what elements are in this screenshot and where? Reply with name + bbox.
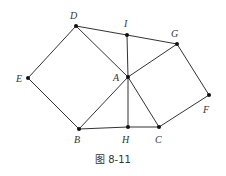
- segment-AG: [128, 44, 177, 77]
- label-F: F: [202, 104, 210, 115]
- point-B: [77, 127, 81, 131]
- point-D: [74, 24, 78, 28]
- segment-BH: [79, 127, 128, 129]
- point-labels: DIGEAFBHC: [15, 10, 210, 145]
- point-A: [126, 75, 130, 79]
- segment-GF: [177, 44, 209, 95]
- segment-EB: [28, 78, 79, 129]
- label-B: B: [74, 134, 80, 145]
- label-A: A: [112, 72, 120, 83]
- figure-caption: 图 8-11: [95, 154, 131, 165]
- point-G: [175, 42, 179, 46]
- segment-DE: [28, 26, 76, 78]
- segment-IA: [127, 35, 128, 77]
- geometry-figure: DIGEAFBHC 图 8-11: [0, 0, 226, 176]
- point-H: [126, 125, 130, 129]
- point-E: [26, 76, 30, 80]
- segment-IG: [127, 35, 177, 44]
- segment-AC: [128, 77, 159, 127]
- label-H: H: [121, 134, 130, 145]
- point-F: [207, 93, 211, 97]
- point-I: [125, 33, 129, 37]
- label-C: C: [155, 134, 162, 145]
- label-E: E: [15, 73, 22, 84]
- point-C: [157, 125, 161, 129]
- label-G: G: [171, 28, 178, 39]
- label-I: I: [123, 18, 128, 29]
- label-D: D: [69, 10, 78, 21]
- segment-AB: [79, 77, 128, 129]
- segment-FC: [159, 95, 209, 127]
